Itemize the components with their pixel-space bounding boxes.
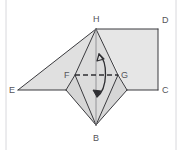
- vertex-label-H: H: [93, 14, 100, 24]
- vertex-label-F: F: [64, 70, 70, 80]
- figure-faces: [18, 29, 158, 125]
- vertex-label-G: G: [121, 70, 128, 80]
- vertex-label-E: E: [9, 85, 15, 95]
- geometry-figure-svg: H D E F G C B: [0, 0, 183, 150]
- vertex-label-D: D: [162, 15, 169, 25]
- vertex-label-B: B: [93, 133, 99, 143]
- vertex-label-C: C: [162, 85, 169, 95]
- geometry-figure-container: H D E F G C B: [0, 0, 183, 150]
